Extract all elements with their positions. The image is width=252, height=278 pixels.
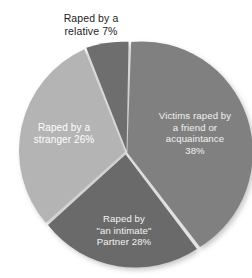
pie-chart: Raped by a relative 7% Victims raped by … xyxy=(0,0,252,278)
pie-slices-group xyxy=(19,41,252,267)
pie-chart-canvas xyxy=(0,0,252,278)
